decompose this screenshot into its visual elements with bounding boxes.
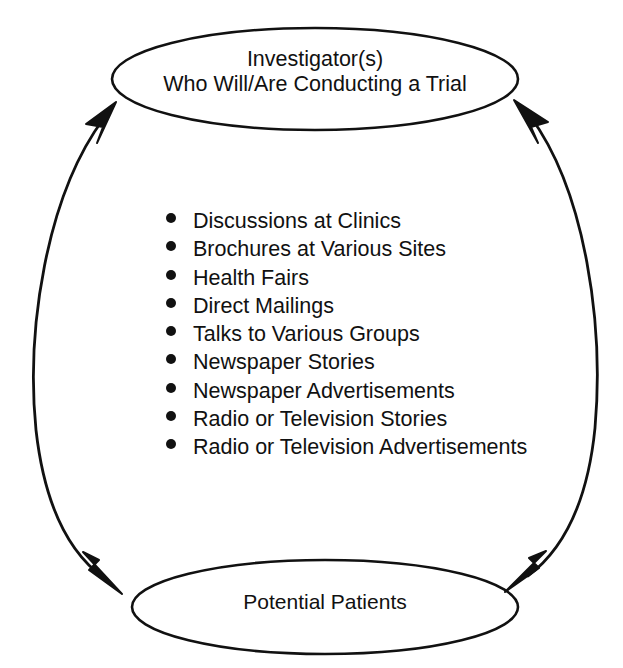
method-label: Brochures at Various Sites [193, 237, 446, 262]
right-arc-bottom-arrowhead [505, 551, 546, 592]
method-label: Newspaper Advertisements [193, 379, 455, 404]
list-item: Talks to Various Groups [166, 322, 527, 350]
left-arc-path [34, 118, 104, 578]
method-label: Radio or Television Stories [193, 407, 447, 432]
bullet-icon [166, 411, 176, 421]
bottom-node-ellipse [132, 560, 518, 654]
recruitment-methods-list: Discussions at Clinics Brochures at Vari… [166, 209, 527, 464]
method-label: Radio or Television Advertisements [193, 435, 527, 460]
bullet-icon [166, 241, 176, 251]
bullet-icon [166, 298, 176, 308]
list-item: Newspaper Advertisements [166, 379, 527, 407]
list-item: Radio or Television Stories [166, 407, 527, 435]
list-item: Discussions at Clinics [166, 209, 527, 237]
left-arc-bottom-arrowhead [83, 552, 122, 594]
bullet-icon [166, 270, 176, 280]
left-arc-connector [34, 102, 122, 594]
bullet-icon [166, 213, 176, 223]
bullet-icon [166, 383, 176, 393]
method-label: Direct Mailings [193, 294, 334, 319]
list-item: Brochures at Various Sites [166, 237, 527, 265]
bullet-icon [166, 439, 176, 449]
method-label: Health Fairs [193, 266, 309, 291]
bullet-icon [166, 354, 176, 364]
list-item: Newspaper Stories [166, 350, 527, 378]
method-label: Discussions at Clinics [193, 209, 401, 234]
list-item: Radio or Television Advertisements [166, 435, 527, 463]
top-node-ellipse [112, 28, 518, 130]
list-item: Direct Mailings [166, 294, 527, 322]
recruitment-cycle-diagram: Investigator(s) Who Will/Are Conducting … [0, 0, 623, 668]
right-arc-path [528, 116, 597, 576]
method-label: Newspaper Stories [193, 350, 375, 375]
bullet-icon [166, 326, 176, 336]
method-label: Talks to Various Groups [193, 322, 420, 347]
list-item: Health Fairs [166, 266, 527, 294]
